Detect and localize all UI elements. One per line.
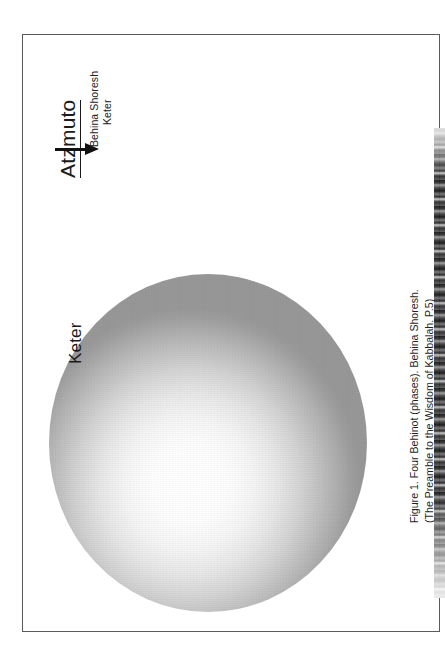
label-keter-arrow: Keter [101,99,113,147]
sphere-gradient [49,274,367,612]
scanned-page: Atzmuto Behina Shoresh Keter Keter Figur… [0,0,445,669]
arrow-shaft [55,148,88,151]
atzmuto-heading: Atzmuto [57,100,81,178]
sphere-figure [49,274,367,612]
label-behina-shoresh: Behina Shoresh [88,71,100,147]
figure-caption: Figure 1. Four Behinot (phases). Behina … [407,178,437,523]
label-keter-sphere: Keter [66,322,86,364]
figure-caption-line-2: (The Preamble to the Wisdom of Kabbalah.… [422,178,437,523]
figure-caption-line-1: Figure 1. Four Behinot (phases). Behina … [407,178,422,523]
